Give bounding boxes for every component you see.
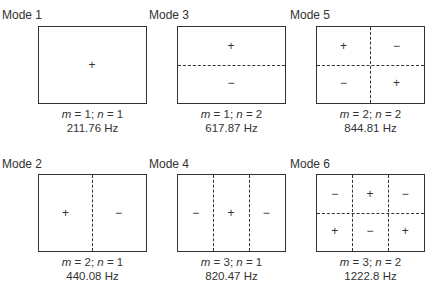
mode-caption: m = 1; n = 2617.87 Hz (177, 107, 286, 135)
plus-sign: + (62, 207, 69, 219)
minus-sign: − (331, 188, 338, 200)
nodal-line-horizontal (317, 65, 424, 66)
plus-sign: + (88, 59, 95, 71)
minus-sign: − (393, 40, 400, 52)
mode-indices: m = 3; n = 1 (177, 255, 286, 269)
plus-sign: + (227, 207, 234, 219)
plate-mode-box: +− (38, 174, 147, 252)
minus-sign: − (192, 207, 199, 219)
mode-title: Mode 2 (2, 157, 42, 171)
minus-sign: − (366, 225, 373, 237)
mode-caption: m = 2; n = 2844.81 Hz (316, 107, 425, 135)
plate-mode-box: −+−+−+ (316, 174, 425, 252)
mode-frequency: 1222.8 Hz (316, 269, 425, 283)
mode-indices: m = 2; n = 2 (316, 107, 425, 121)
mode-title: Mode 1 (2, 8, 42, 22)
plus-sign: + (393, 77, 400, 89)
minus-sign: − (227, 77, 234, 89)
nodal-line-vertical (249, 175, 250, 251)
mode-caption: m = 3; n = 21222.8 Hz (316, 255, 425, 283)
plus-sign: + (227, 40, 234, 52)
minus-sign: − (263, 207, 270, 219)
nodal-line-horizontal (178, 65, 285, 66)
minus-sign: − (402, 188, 409, 200)
mode-frequency: 440.08 Hz (38, 269, 147, 283)
minus-sign: − (115, 207, 122, 219)
nodal-line-vertical (213, 175, 214, 251)
mode-caption: m = 1; n = 1211.76 Hz (38, 107, 147, 135)
mode-frequency: 617.87 Hz (177, 121, 286, 135)
plus-sign: + (340, 40, 347, 52)
mode-title: Mode 4 (149, 157, 189, 171)
plus-sign: + (331, 225, 338, 237)
minus-sign: − (340, 77, 347, 89)
mode-frequency: 820.47 Hz (177, 269, 286, 283)
plus-sign: + (402, 225, 409, 237)
plate-mode-box: +− (177, 26, 286, 104)
mode-indices: m = 2; n = 1 (38, 255, 147, 269)
mode-caption: m = 2; n = 1440.08 Hz (38, 255, 147, 283)
mode-indices: m = 3; n = 2 (316, 255, 425, 269)
mode-indices: m = 1; n = 2 (177, 107, 286, 121)
nodal-line-horizontal (317, 213, 424, 214)
mode-indices: m = 1; n = 1 (38, 107, 147, 121)
plate-mode-box: +−−+ (316, 26, 425, 104)
mode-title: Mode 6 (290, 157, 330, 171)
mode-title: Mode 5 (290, 8, 330, 22)
mode-frequency: 844.81 Hz (316, 121, 425, 135)
mode-frequency: 211.76 Hz (38, 121, 147, 135)
nodal-line-vertical (92, 175, 93, 251)
mode-caption: m = 3; n = 1820.47 Hz (177, 255, 286, 283)
plate-mode-box: −+− (177, 174, 286, 252)
mode-title: Mode 3 (149, 8, 189, 22)
plate-mode-box: + (38, 26, 147, 104)
plus-sign: + (366, 188, 373, 200)
